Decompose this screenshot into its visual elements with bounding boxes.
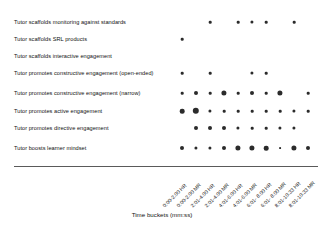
data-point [291, 145, 296, 150]
data-point [235, 145, 240, 150]
data-point [194, 91, 198, 95]
category-label: Tutor boosts learner mindset [14, 145, 86, 151]
data-point [250, 91, 254, 95]
data-point [265, 92, 268, 95]
data-point [265, 127, 268, 130]
category-label: Tutor scaffolds monitoring against stand… [14, 19, 126, 25]
data-point [251, 127, 254, 130]
category-label: Tutor promotes active engagement [14, 108, 102, 114]
data-point [181, 72, 184, 75]
data-point [250, 20, 253, 23]
data-point [292, 109, 295, 112]
data-point [209, 92, 212, 95]
data-point [249, 145, 254, 150]
data-point [222, 146, 226, 150]
data-point [221, 90, 226, 95]
category-label: Tutor promotes constructive engagement (… [14, 90, 141, 96]
category-label: Tutor promotes constructive engagement (… [14, 70, 153, 76]
data-point [194, 146, 197, 149]
data-point [181, 38, 184, 41]
data-point [209, 21, 212, 24]
data-point [193, 108, 199, 114]
data-point [208, 146, 211, 149]
data-point [209, 72, 212, 75]
data-point [265, 72, 268, 75]
data-point [194, 126, 198, 130]
data-point [237, 110, 240, 113]
data-point [251, 110, 254, 113]
data-point [180, 109, 185, 114]
data-point [307, 92, 310, 95]
x-axis-line [14, 166, 318, 167]
data-point [236, 126, 239, 129]
category-label: Tutor scaffolds SRL products [14, 36, 87, 42]
data-point [208, 126, 212, 130]
data-point [279, 110, 282, 113]
data-point [223, 110, 226, 113]
data-point [293, 21, 296, 24]
data-point [292, 126, 295, 129]
data-point [265, 110, 268, 113]
category-label: Tutor scaffolds interactive engagement [14, 53, 112, 59]
data-point [265, 21, 268, 24]
data-point [307, 110, 310, 113]
data-point [278, 126, 281, 129]
data-point [264, 146, 269, 151]
data-point [222, 126, 226, 130]
data-point [181, 92, 184, 95]
data-point [279, 147, 281, 149]
data-point [237, 21, 240, 24]
data-point [277, 90, 282, 95]
data-point [237, 92, 240, 95]
bubble-chart: Time buckets (mm:ss) Tutor scaffolds mon… [0, 0, 324, 231]
data-point [180, 146, 184, 150]
data-point [250, 71, 253, 74]
x-axis-title: Time buckets (mm:ss) [0, 211, 324, 218]
data-point [208, 109, 211, 112]
category-label: Tutor promotes directive engagement [14, 125, 109, 131]
data-point [306, 146, 310, 150]
